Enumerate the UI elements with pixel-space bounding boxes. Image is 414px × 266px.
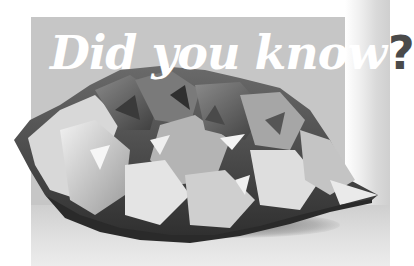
question-mark: ? bbox=[388, 26, 414, 80]
headline: Did you know? bbox=[50, 18, 414, 88]
headline-text: Did you know bbox=[50, 26, 386, 80]
